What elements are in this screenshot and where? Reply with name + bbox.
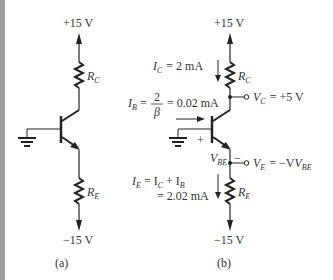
panel-b-supply-bottom: −15 V [214,233,245,247]
panel-a-circuit: +15 V RC RE −15 V (a) [18,16,100,270]
panel-a-re-label: RE [86,185,99,201]
panel-b-re-label: RE [237,185,250,201]
panel-b-ib-annotation: IB= [127,96,147,112]
panel-a-caption: (a) [55,256,68,270]
panel-b-ground-icon [169,138,187,146]
panel-b-ib-numerator: 2 [154,90,160,104]
panel-a-down-arrow-icon [76,220,82,231]
panel-b-ve-terminal-icon [244,161,249,166]
panel-b-ie-arrow-icon [215,192,221,199]
panel-b-down-arrow-icon [227,220,233,231]
panel-b-vc-terminal-icon [244,95,249,100]
panel-b-ic-arrow-icon [215,75,221,82]
panel-b-supply-top: +15 V [214,16,245,30]
panel-a-re-resistor-icon [75,178,83,204]
panel-b-rc-resistor-icon [226,62,234,88]
panel-b-ic-annotation: IC= 2 mA [152,59,203,75]
panel-a-supply-top: +15 V [63,16,94,30]
panel-b-ib-denominator: β [153,105,160,119]
panel-b-rc-label: RC [237,69,251,85]
panel-b-ib-arrow-icon [197,116,205,122]
panel-b-vbe-plus: + [197,133,204,147]
circuit-diagram: +15 V RC RE −15 V (a) +1 [0,0,333,280]
panel-b-up-arrow-icon [227,33,233,44]
panel-b-re-resistor-icon [226,178,234,204]
panel-a-rc-label: RC [86,69,100,85]
panel-b-vc-annotation: VC= +5 V [253,90,304,106]
panel-a-rc-resistor-icon [75,62,83,88]
panel-a-ground-icon [18,138,36,146]
panel-b-vbe-annotation: VBE [210,151,227,167]
panel-a-supply-bottom: −15 V [63,233,94,247]
panel-b-circuit: +15 V RC IC= 2 mA VC= +5 V IB= 2 β = 0.0… [127,16,312,270]
panel-b-ie-annotation: IE= IC+ IB [131,174,185,190]
panel-a-up-arrow-icon [76,33,82,44]
panel-b-ve-annotation: VE= −VVBE [253,156,312,172]
panel-b-ib-value: = 0.02 mA [167,96,219,110]
panel-b-ie-value: = 2.02 mA [157,189,209,203]
panel-b-caption: (b) [217,256,231,270]
